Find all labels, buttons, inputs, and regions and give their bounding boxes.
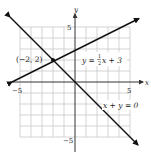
svg-text:x + 3: x + 3 bbox=[102, 56, 122, 65]
x-min-tick-label: −5 bbox=[12, 87, 22, 95]
svg-text:2: 2 bbox=[98, 60, 101, 66]
point-label: (−2, 2) bbox=[16, 55, 43, 64]
x-max-tick-label: 5 bbox=[127, 87, 131, 95]
y-max-tick-label: 5 bbox=[67, 24, 71, 32]
svg-text:1: 1 bbox=[98, 53, 101, 59]
intersection-point bbox=[51, 58, 55, 62]
svg-text:y =: y = bbox=[81, 56, 95, 65]
y-min-tick-label: −5 bbox=[63, 137, 73, 145]
y-axis-label: y bbox=[73, 6, 79, 14]
x-axis-label: x bbox=[145, 79, 149, 87]
coordinate-graph: y x 5 −5 −5 5 (−2, 2) y = 1 2 x + 3 x + … bbox=[0, 0, 151, 159]
equation-2-label: x + y = 0 bbox=[103, 101, 139, 110]
